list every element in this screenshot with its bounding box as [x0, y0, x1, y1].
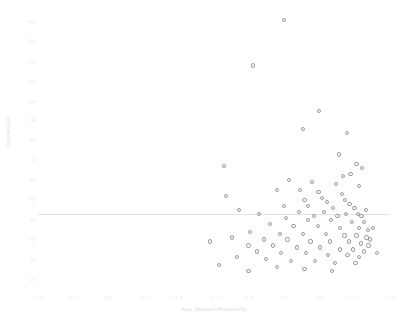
y-axis-tick-label: 140 — [2, 19, 36, 24]
y-axis-tick-label: 60 — [2, 178, 36, 183]
scatter-point — [352, 206, 356, 210]
scatter-point — [344, 212, 348, 216]
y-axis-tick-label: 120 — [2, 59, 36, 64]
scatter-point — [255, 249, 259, 253]
scatter-point — [257, 212, 261, 216]
scatter-point — [333, 261, 337, 265]
scatter-point — [306, 218, 310, 222]
scatter-point — [279, 251, 283, 255]
scatter-point — [347, 239, 351, 243]
y-axis-tick-label: 40 — [2, 217, 36, 222]
x-axis-tick-label: 0.1 — [58, 295, 88, 300]
scatter-plot-figure: 140130120110100908070605040302010 DenRes… — [0, 0, 405, 317]
scatter-point — [366, 228, 370, 232]
scatter-point — [354, 162, 358, 166]
x-axis-tick-label: 0.7 — [269, 295, 299, 300]
x-axis-tick-label: 0.5 — [199, 295, 229, 300]
scatter-point — [357, 255, 361, 259]
scatter-point — [328, 239, 332, 243]
scatter-point — [326, 253, 330, 257]
scatter-point — [329, 218, 333, 222]
x-axis-tick-label: 0.3 — [129, 295, 159, 300]
x-axis-tick-label: 0.8 — [305, 295, 335, 300]
scatter-point — [342, 233, 346, 237]
scatter-point — [278, 232, 282, 236]
scatter-point — [366, 243, 370, 247]
scatter-point — [375, 251, 379, 255]
scatter-point — [359, 241, 363, 245]
scatter-point — [289, 259, 293, 263]
scatter-point — [324, 232, 328, 236]
x-axis-title: Avg. Always+Frequently — [38, 306, 390, 312]
scatter-point — [360, 166, 364, 170]
scatter-point — [347, 202, 351, 206]
scatter-point — [308, 239, 312, 243]
scatter-point — [306, 204, 310, 208]
scatter-point — [237, 208, 241, 212]
scatter-point — [353, 261, 357, 265]
scatter-point — [301, 127, 305, 131]
y-axis-title: DenRes10k — [5, 101, 11, 161]
scatter-point — [302, 198, 306, 202]
scatter-point — [287, 178, 291, 182]
scatter-point — [345, 253, 349, 257]
scatter-point — [371, 226, 375, 230]
scatter-point — [301, 232, 305, 236]
scatter-point — [337, 152, 341, 156]
scatter-point — [310, 180, 314, 184]
scatter-point — [331, 206, 335, 210]
x-axis-tick-label: 0.2 — [93, 295, 123, 300]
scatter-point — [316, 190, 320, 194]
y-axis-tick-label: 130 — [2, 39, 36, 44]
scatter-point — [335, 214, 339, 218]
scatter-point — [271, 243, 275, 247]
scatter-point — [313, 259, 317, 263]
scatter-point — [291, 224, 295, 228]
x-axis-tick-label: 0.0 — [23, 295, 53, 300]
top-truncated-strip — [0, 0, 405, 8]
scatter-point — [304, 251, 308, 255]
x-axis-tick-label: 0.6 — [234, 295, 264, 300]
scatter-point — [268, 222, 272, 226]
y-axis-tick-label: 10 — [2, 277, 36, 282]
scatter-point — [246, 243, 250, 247]
scatter-point — [224, 194, 228, 198]
scatter-point — [298, 188, 302, 192]
x-axis-tick-label: 0.4 — [164, 295, 194, 300]
scatter-point — [338, 226, 342, 230]
scatter-point — [285, 237, 289, 241]
scatter-point — [340, 192, 344, 196]
y-axis-tick-label: 50 — [2, 197, 36, 202]
x-axis-tick-label: 0.9 — [340, 295, 370, 300]
scatter-point — [318, 245, 322, 249]
scatter-point — [217, 263, 221, 267]
scatter-point — [368, 237, 372, 241]
scatter-point — [302, 267, 306, 271]
scatter-point — [345, 131, 349, 135]
scatter-point — [264, 257, 268, 261]
scatter-point — [295, 245, 299, 249]
scatter-point — [338, 247, 342, 251]
scatter-point — [364, 208, 368, 212]
scatter-point — [334, 182, 338, 186]
scatter-point — [208, 239, 212, 243]
scatter-point — [251, 63, 255, 67]
x-axis-tick-labels: 0.00.10.20.30.40.50.60.70.80.91.0 — [38, 295, 390, 303]
scatter-point — [341, 174, 345, 178]
scatter-point — [282, 204, 286, 208]
scatter-point — [282, 18, 286, 22]
scatter-point — [316, 224, 320, 228]
scatter-point — [343, 198, 347, 202]
scatter-point — [312, 214, 316, 218]
scatter-point — [222, 164, 226, 168]
y-axis-tick-label: 30 — [2, 237, 36, 242]
scatter-point — [320, 196, 324, 200]
scatter-point — [246, 269, 250, 273]
scatter-point — [362, 249, 366, 253]
scatter-point — [275, 265, 279, 269]
scatter-point — [348, 172, 352, 176]
scatter-point — [351, 247, 355, 251]
scatter-point — [275, 188, 279, 192]
scatter-point — [317, 109, 321, 113]
scatter-point — [262, 237, 266, 241]
